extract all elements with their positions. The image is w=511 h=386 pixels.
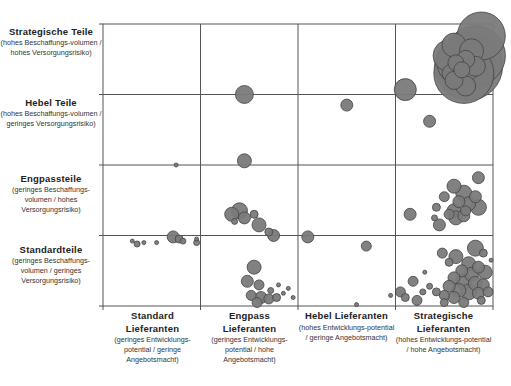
y-label-title: Standardteile bbox=[0, 244, 102, 256]
data-bubble bbox=[472, 172, 484, 184]
data-bubble bbox=[355, 303, 359, 307]
y-label-title: Strategische Teile bbox=[0, 26, 102, 38]
data-bubble bbox=[264, 294, 274, 304]
y-label-standardteile: Standardteile (geringes Beschaffungs-vol… bbox=[0, 244, 102, 286]
data-bubble bbox=[489, 258, 493, 262]
x-label-subtitle: (hohes Entwicklungs-potential / geringe … bbox=[298, 323, 395, 343]
data-bubble bbox=[437, 248, 447, 258]
data-bubble bbox=[180, 238, 186, 244]
y-label-subtitle: (geringes Beschaffungs-volumen / hohes V… bbox=[0, 185, 102, 215]
y-label-subtitle: (hohes Beschaffungs-volumen / hohes Vers… bbox=[0, 38, 102, 58]
y-label-strategische-teile: Strategische Teile (hohes Beschaffungs-v… bbox=[0, 26, 102, 58]
data-bubble bbox=[440, 299, 448, 307]
data-bubble bbox=[134, 241, 140, 247]
y-label-hebel-teile: Hebel Teile (hohes Beschaffungs-volumen … bbox=[0, 97, 102, 129]
data-bubble bbox=[277, 283, 281, 287]
data-bubble bbox=[432, 215, 438, 221]
x-label-title: Standard Lieferanten bbox=[104, 310, 201, 335]
x-label-hebel-lieferanten: Hebel Lieferanten (hohes Entwicklungs-po… bbox=[298, 310, 395, 343]
data-bubble bbox=[130, 239, 134, 243]
data-bubble bbox=[423, 270, 427, 274]
data-bubble bbox=[483, 287, 493, 297]
y-label-title: Hebel Teile bbox=[0, 97, 102, 109]
data-bubble bbox=[469, 191, 481, 203]
data-bubble bbox=[341, 99, 353, 111]
data-bubble bbox=[174, 163, 178, 167]
y-label-engpassteile: Engpassteile (geringes Beschaffungs-volu… bbox=[0, 173, 102, 215]
x-label-standard-lieferanten: Standard Lieferanten (geringes Entwicklu… bbox=[104, 310, 201, 365]
data-bubble bbox=[453, 196, 465, 208]
data-bubble bbox=[237, 154, 251, 168]
data-bubble bbox=[291, 296, 295, 300]
data-bubble bbox=[241, 275, 253, 287]
data-bubble bbox=[439, 192, 449, 202]
x-label-engpass-lieferanten: Engpass Lieferanten (geringes Entwicklun… bbox=[201, 310, 298, 365]
data-bubble bbox=[389, 293, 393, 297]
data-bubble bbox=[238, 212, 250, 224]
data-bubble bbox=[268, 288, 274, 294]
x-label-subtitle: (geringes Entwicklungs-potential / gerin… bbox=[104, 335, 201, 365]
y-label-title: Engpassteile bbox=[0, 173, 102, 185]
x-label-title: Strategische Lieferanten bbox=[395, 310, 492, 335]
data-bubble bbox=[286, 286, 290, 290]
data-bubble bbox=[247, 260, 261, 274]
data-bubble bbox=[412, 295, 422, 305]
data-bubble bbox=[401, 294, 409, 302]
data-bubble bbox=[394, 79, 416, 101]
data-bubble bbox=[155, 241, 159, 245]
data-bubble bbox=[477, 296, 485, 304]
x-label-strategische-lieferanten: Strategische Lieferanten (hohes Entwickl… bbox=[395, 310, 492, 355]
data-bubble bbox=[142, 241, 146, 245]
data-bubble bbox=[232, 218, 238, 224]
data-bubble bbox=[195, 237, 199, 241]
data-bubble bbox=[235, 86, 253, 104]
data-bubble bbox=[454, 62, 470, 78]
data-bubble bbox=[404, 208, 416, 220]
data-bubble bbox=[445, 258, 453, 266]
data-bubble bbox=[265, 228, 273, 236]
data-bubble bbox=[408, 276, 418, 286]
data-bubble bbox=[432, 203, 440, 211]
data-bubble bbox=[459, 298, 469, 308]
y-label-subtitle: (geringes Beschaffungs-volumen / geringe… bbox=[0, 256, 102, 286]
x-label-title: Engpass Lieferanten bbox=[201, 310, 298, 335]
data-bubble bbox=[424, 115, 436, 127]
x-label-subtitle: (geringes Entwicklungs-potential / hohe … bbox=[201, 335, 298, 365]
data-bubble bbox=[461, 206, 471, 216]
data-bubble bbox=[361, 241, 371, 251]
data-bubble bbox=[254, 280, 264, 290]
data-bubble bbox=[444, 209, 454, 219]
data-bubble bbox=[273, 294, 281, 302]
data-bubble bbox=[420, 289, 426, 295]
data-bubble bbox=[302, 231, 314, 243]
portfolio-bubble-chart: Strategische Teile (hohes Beschaffungs-v… bbox=[0, 0, 511, 386]
data-bubble bbox=[448, 292, 460, 304]
data-bubble bbox=[250, 210, 258, 218]
data-bubble bbox=[252, 298, 262, 308]
x-label-subtitle: (hohes Entwicklungs-potential / hohe Ang… bbox=[395, 335, 492, 355]
data-bubble bbox=[427, 283, 433, 289]
y-label-subtitle: (hohes Beschaffungs-volumen / geringes V… bbox=[0, 109, 102, 129]
data-bubble bbox=[447, 179, 461, 193]
x-label-title: Hebel Lieferanten bbox=[298, 310, 395, 323]
data-bubble bbox=[281, 291, 285, 295]
data-bubble bbox=[479, 249, 487, 257]
data-bubble bbox=[432, 288, 440, 296]
data-bubble bbox=[472, 261, 484, 273]
data-bubble bbox=[252, 218, 266, 232]
